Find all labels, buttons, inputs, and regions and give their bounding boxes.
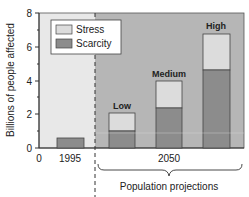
- bar-medium-stress: [156, 81, 182, 108]
- legend-swatch-scarcity: [56, 39, 72, 48]
- y-tick-6: 6: [26, 42, 32, 53]
- water-stress-chart: 0 2 4 6 8 0 Billions of people affected …: [0, 0, 249, 197]
- bar-low-scarcity: [109, 131, 135, 148]
- y-axis-label: Billions of people affected: [5, 23, 16, 137]
- legend-label-scarcity: Scarcity: [76, 38, 112, 49]
- legend: Stress Scarcity: [51, 20, 121, 54]
- bar-1995-scarcity: [57, 138, 84, 148]
- bar-label-low: Low: [113, 101, 132, 111]
- y-tick-8: 8: [26, 8, 32, 19]
- legend-swatch-stress: [56, 25, 72, 34]
- y-ticks: [35, 13, 39, 148]
- y-tick-2: 2: [26, 109, 32, 120]
- bar-label-medium: Medium: [152, 69, 186, 79]
- bar-medium-scarcity: [156, 108, 182, 148]
- x-label-1995: 1995: [59, 153, 82, 164]
- bar-low-stress: [109, 113, 135, 131]
- bar-high-stress: [203, 34, 230, 70]
- x-label-2050: 2050: [158, 153, 181, 164]
- bar-label-high: High: [206, 21, 226, 31]
- y-tick-0: 0: [26, 143, 32, 154]
- x-zero-label: 0: [36, 153, 42, 164]
- x-axis-title: Population projections: [120, 181, 218, 192]
- group-brace: [98, 164, 242, 176]
- bar-high-scarcity: [203, 70, 230, 148]
- y-tick-4: 4: [26, 76, 32, 87]
- legend-label-stress: Stress: [76, 24, 104, 35]
